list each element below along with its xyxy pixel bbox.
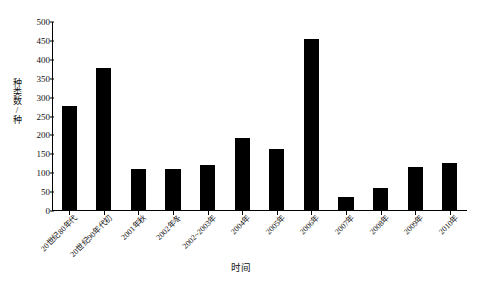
bar [304, 39, 319, 211]
y-tick-label: 150 [16, 150, 50, 159]
bar-series [52, 22, 467, 211]
x-tick-label: 2002~2003年 [180, 213, 218, 251]
x-tick-label: 2001年秋 [120, 213, 149, 242]
bar [62, 106, 77, 211]
x-tick-label: 2009年 [402, 213, 425, 236]
x-tick-label: 2008年 [368, 213, 391, 236]
bar-chart: 种类数/种 500450400350300250200150100500 20世… [0, 0, 482, 282]
x-tick-label: 2010年 [437, 213, 460, 236]
y-tick-label: 400 [16, 55, 50, 64]
x-axis-title: 时间 [0, 260, 482, 274]
x-axis-labels: 20世纪80年代20世纪90年代初2001年秋2002年冬2002~2003年2… [52, 213, 467, 259]
bar [200, 165, 215, 211]
y-tick-label: 350 [16, 74, 50, 83]
y-axis-ticks: 500450400350300250200150100500 [12, 22, 50, 211]
bar [408, 167, 423, 211]
bar [131, 169, 146, 211]
y-tick-label: 50 [16, 188, 50, 197]
y-tick-label: 300 [16, 93, 50, 102]
x-tick-label: 2005年 [264, 213, 287, 236]
y-tick-label: 500 [16, 18, 50, 27]
bar [373, 188, 388, 211]
x-tick-label: 2006年 [298, 213, 321, 236]
y-tick-label: 0 [16, 207, 50, 216]
x-tick-label: 2007年 [333, 213, 356, 236]
bar [338, 197, 353, 211]
bar [96, 68, 111, 211]
y-tick-label: 450 [16, 36, 50, 45]
bar [442, 163, 457, 211]
y-tick-label: 100 [16, 169, 50, 178]
bar [165, 169, 180, 211]
bar [269, 149, 284, 211]
bar [235, 138, 250, 211]
y-tick-label: 250 [16, 112, 50, 121]
x-tick-label: 2002年冬 [154, 213, 183, 242]
x-tick-label: 2004年 [229, 213, 252, 236]
y-tick-label: 200 [16, 131, 50, 140]
